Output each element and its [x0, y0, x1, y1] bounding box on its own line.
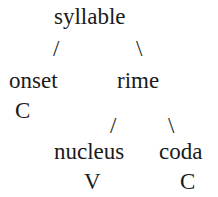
onset-symbol: C: [15, 99, 30, 122]
nucleus-symbol: V: [84, 170, 101, 193]
branch-syllable-onset: /: [53, 37, 59, 60]
coda-symbol: C: [180, 170, 195, 193]
node-coda: coda: [159, 140, 202, 163]
node-nucleus: nucleus: [54, 140, 124, 163]
branch-rime-nucleus: /: [110, 114, 116, 137]
node-syllable: syllable: [54, 5, 126, 28]
branch-syllable-rime: \: [136, 37, 142, 60]
node-rime: rime: [117, 69, 159, 92]
branch-rime-coda: \: [168, 114, 174, 137]
node-onset: onset: [9, 69, 58, 92]
